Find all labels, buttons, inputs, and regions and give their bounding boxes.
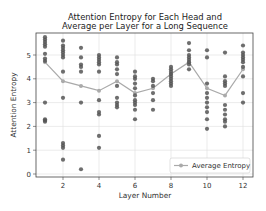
x-tick-label: 10 (203, 182, 212, 190)
head-point (241, 65, 245, 69)
head-point (115, 55, 119, 59)
head-point (223, 112, 227, 116)
head-point (223, 103, 227, 107)
head-point (205, 117, 209, 121)
average-point (115, 79, 119, 83)
head-point (115, 96, 119, 100)
head-point (79, 65, 83, 69)
head-point (79, 70, 83, 74)
head-point (43, 52, 47, 56)
head-point (61, 158, 65, 162)
head-point (97, 62, 101, 66)
head-point (241, 74, 245, 78)
head-point (115, 72, 119, 76)
head-point (205, 96, 209, 100)
head-point (241, 91, 245, 95)
head-point (43, 59, 47, 63)
head-point (205, 101, 209, 105)
x-tick-label: 4 (97, 182, 102, 190)
head-point (205, 55, 209, 59)
head-point (205, 127, 209, 131)
head-point (205, 91, 209, 95)
head-point (133, 81, 137, 85)
chart-title-line-2: Average per Layer for a Long Sequence (62, 21, 228, 31)
legend-marker-icon (179, 164, 183, 168)
x-axis-label: Layer Number (119, 191, 173, 200)
y-axis-label: Attention Entropy (9, 72, 18, 138)
head-entropy-points (43, 35, 245, 171)
head-point (133, 86, 137, 90)
head-point (79, 167, 83, 171)
head-point (115, 84, 119, 88)
head-point (133, 108, 137, 112)
head-point (187, 62, 191, 66)
head-point (79, 55, 83, 59)
head-point (187, 48, 191, 52)
head-point (43, 45, 47, 49)
y-tick-label: 4 (27, 75, 32, 83)
head-point (133, 103, 137, 107)
head-point (223, 120, 227, 124)
head-point (43, 101, 47, 105)
x-tick-label: 12 (239, 182, 248, 190)
head-point (133, 117, 137, 121)
head-point (61, 96, 65, 100)
head-point (223, 74, 227, 78)
x-tick-label: 8 (169, 182, 173, 190)
y-tick-label: 5 (27, 52, 31, 60)
head-point (97, 134, 101, 138)
head-point (223, 124, 227, 128)
head-point (223, 108, 227, 112)
legend: Average Entropy (170, 158, 250, 173)
head-point (97, 112, 101, 116)
head-point (169, 84, 173, 88)
y-tick-label: 1 (27, 147, 31, 155)
head-point (223, 51, 227, 55)
x-axis-ticks: 24681012 (61, 177, 248, 190)
head-point (151, 84, 155, 88)
head-point (223, 84, 227, 88)
average-point (205, 86, 209, 90)
average-point (79, 84, 83, 88)
head-point (241, 60, 245, 64)
chart: Attention Entropy for Each Head and Aver… (0, 0, 266, 211)
head-point (151, 108, 155, 112)
head-point (61, 146, 65, 150)
average-point (61, 79, 65, 83)
head-point (133, 77, 137, 81)
head-point (43, 120, 47, 124)
x-tick-label: 6 (133, 182, 138, 190)
head-point (133, 70, 137, 74)
head-point (187, 67, 191, 71)
head-point (205, 48, 209, 52)
head-point (151, 98, 155, 102)
head-point (61, 55, 65, 59)
head-point (97, 146, 101, 150)
head-point (115, 62, 119, 66)
head-point (97, 98, 101, 102)
head-point (205, 110, 209, 114)
plot-frame (36, 33, 253, 177)
y-tick-label: 3 (27, 99, 31, 107)
head-point (115, 67, 119, 71)
head-point (115, 105, 119, 109)
head-point (151, 91, 155, 95)
head-point (61, 70, 65, 74)
head-point (133, 93, 137, 97)
y-tick-label: 0 (27, 171, 31, 179)
grid-lines (36, 33, 253, 177)
x-tick-label: 2 (61, 182, 65, 190)
average-point (97, 89, 101, 93)
head-point (241, 101, 245, 105)
head-point (187, 41, 191, 45)
average-point (223, 93, 227, 97)
head-point (79, 101, 83, 105)
legend-label: Average Entropy (192, 162, 250, 170)
head-point (205, 81, 209, 85)
head-point (205, 105, 209, 109)
y-axis-ticks: 012345 (27, 52, 36, 179)
head-point (61, 39, 65, 43)
head-point (151, 79, 155, 83)
head-point (241, 43, 245, 47)
head-point (97, 70, 101, 74)
